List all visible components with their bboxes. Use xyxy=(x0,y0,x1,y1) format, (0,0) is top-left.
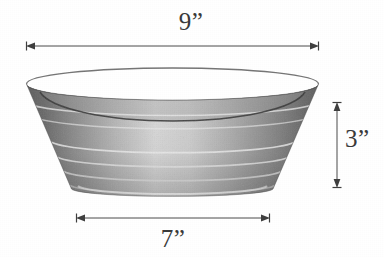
bowl-illustration xyxy=(0,60,384,200)
arrowhead-right-base-diameter xyxy=(261,215,270,222)
arrowhead-right-top-diameter xyxy=(310,43,319,50)
dimension-height xyxy=(333,102,342,188)
height-label: 3” xyxy=(345,126,370,151)
arrowhead-bottom-height xyxy=(334,179,341,188)
bowl-dimension-diagram xyxy=(0,0,384,257)
arrowhead-left-top-diameter xyxy=(26,43,35,50)
height-label-text: 3” xyxy=(345,125,370,152)
arrowhead-left-base-diameter xyxy=(76,215,85,222)
base-diameter-label-text: 7” xyxy=(161,225,186,252)
top-diameter-label: 9” xyxy=(0,9,384,34)
top-diameter-label-text: 9” xyxy=(179,9,204,34)
dimension-top-diameter xyxy=(26,42,319,51)
base-diameter-label: 7” xyxy=(76,226,270,251)
dimension-base-diameter xyxy=(76,214,270,223)
arrowhead-top-height xyxy=(334,102,341,111)
bowl-rim-back-edge xyxy=(27,68,319,84)
